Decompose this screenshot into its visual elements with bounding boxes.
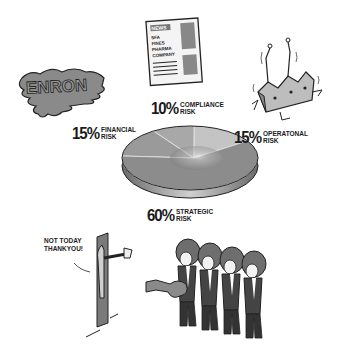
infographic-canvas: ENRON NEWS SFA FINES PHARMA COMPANY bbox=[0, 0, 349, 350]
speech-bubble-text: NOT TODAY THANKYOU! bbox=[44, 237, 83, 253]
band-illustration bbox=[146, 239, 266, 338]
slice-caption-risk: RISK bbox=[176, 215, 213, 222]
slice-caption-compliance: COMPLIANCE bbox=[180, 101, 224, 108]
newspaper-headline-line: SFA bbox=[151, 35, 161, 41]
speech-line: NOT TODAY bbox=[44, 237, 83, 245]
band-member bbox=[242, 251, 266, 338]
slice-caption-financial: FINANCIAL bbox=[101, 126, 136, 133]
slice-pct-operational: 15% bbox=[234, 127, 261, 147]
guitar-icon bbox=[146, 280, 187, 297]
slice-caption-risk: RISK bbox=[101, 133, 136, 140]
pie-highlight bbox=[170, 146, 222, 170]
slice-caption-risk: RISK bbox=[263, 137, 308, 144]
slice-caption-risk: RISK bbox=[180, 108, 224, 115]
factory-illustration bbox=[252, 38, 322, 120]
newspaper-masthead: NEWS bbox=[151, 24, 167, 31]
slice-caption-operational: OPERATONAL bbox=[263, 130, 308, 137]
slice-pct-financial: 15% bbox=[72, 123, 99, 143]
newspaper-headline-line: FINES bbox=[151, 40, 165, 46]
slice-pct-strategic: 60% bbox=[147, 205, 174, 225]
newspaper-illustration: NEWS SFA FINES PHARMA COMPANY bbox=[146, 18, 202, 85]
enron-logo-text: ENRON bbox=[25, 76, 87, 98]
slice-label-financial: 15% FINANCIALRISK bbox=[72, 124, 136, 141]
slice-caption-strategic: STRATEGIC bbox=[176, 208, 213, 215]
band-member bbox=[220, 247, 244, 334]
slice-label-strategic: 60% STRATEGICRISK bbox=[147, 206, 213, 223]
slice-label-operational: 15% OPERATONALRISK bbox=[234, 128, 308, 145]
speech-line: THANKYOU! bbox=[44, 245, 83, 253]
slice-pct-compliance: 10% bbox=[151, 98, 178, 118]
slice-label-compliance: 10% COMPLIANCERISK bbox=[151, 99, 224, 116]
band-member bbox=[198, 243, 222, 330]
enron-logo-illustration: ENRON bbox=[19, 69, 104, 117]
